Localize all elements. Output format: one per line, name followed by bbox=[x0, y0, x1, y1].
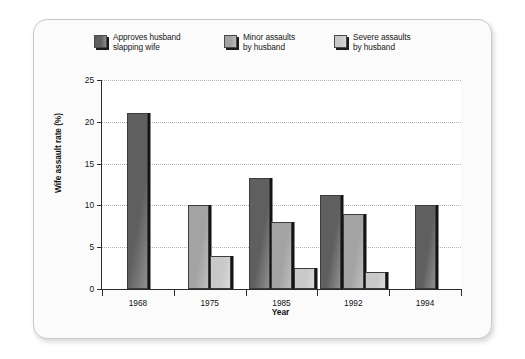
y-tick-label: 0 bbox=[89, 284, 94, 294]
y-gridline bbox=[102, 122, 461, 123]
x-axis-title: Year bbox=[101, 307, 460, 317]
bar bbox=[127, 113, 148, 289]
plot-wrapper: Wife assault rate (%) Year 0510152025196… bbox=[34, 20, 493, 340]
bar bbox=[343, 214, 364, 289]
plot-area: 051015202519681975198519921994 bbox=[101, 80, 461, 290]
bar bbox=[294, 268, 315, 289]
y-gridline bbox=[102, 164, 461, 165]
x-tick-label: 1975 bbox=[200, 298, 218, 308]
x-tick-label: 1985 bbox=[272, 298, 290, 308]
y-gridline bbox=[102, 80, 461, 81]
y-tick-mark bbox=[97, 80, 102, 81]
x-tick-mark bbox=[174, 289, 175, 296]
bar bbox=[365, 272, 386, 289]
y-tick-label: 20 bbox=[85, 117, 94, 127]
bar bbox=[320, 195, 341, 289]
x-tick-label: 1994 bbox=[416, 298, 434, 308]
y-tick-mark bbox=[97, 164, 102, 165]
y-tick-mark bbox=[97, 205, 102, 206]
bar bbox=[249, 178, 270, 289]
x-tick-mark bbox=[389, 289, 390, 296]
bar bbox=[271, 222, 292, 289]
x-tick-label: 1968 bbox=[129, 298, 147, 308]
bar bbox=[415, 205, 436, 289]
bar bbox=[210, 256, 231, 289]
y-tick-label: 5 bbox=[89, 242, 94, 252]
chart-card: Approves husband slapping wife Minor ass… bbox=[33, 19, 492, 339]
y-tick-mark bbox=[97, 122, 102, 123]
y-tick-label: 10 bbox=[85, 200, 94, 210]
bar bbox=[188, 205, 209, 289]
x-tick-mark bbox=[317, 289, 318, 296]
x-tick-mark bbox=[102, 289, 103, 296]
y-gridline bbox=[102, 205, 461, 206]
y-tick-mark bbox=[97, 247, 102, 248]
x-tick-label: 1992 bbox=[344, 298, 362, 308]
y-tick-label: 15 bbox=[85, 159, 94, 169]
y-tick-label: 25 bbox=[85, 75, 94, 85]
x-tick-mark bbox=[246, 289, 247, 296]
x-tick-mark bbox=[461, 289, 462, 296]
y-axis-title: Wife assault rate (%) bbox=[53, 93, 63, 213]
